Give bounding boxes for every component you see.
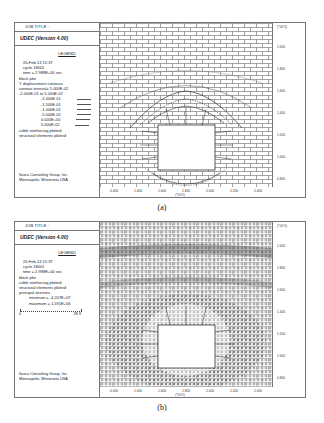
x-tick-label: 1.600 (158, 189, 166, 193)
contour-line-swatch (77, 99, 91, 100)
company-location: Minneapolis, Minnesota USA (19, 178, 68, 183)
app-title: UDEC (Version 4.00) (15, 32, 99, 46)
scale-max-label: 2E 8 (74, 312, 81, 316)
stress-scale-labels: 0 2E 8 (19, 312, 81, 316)
legend-stress-max: maximum = 1.591E+06 (15, 301, 99, 306)
contour-level-label: 5.000E-02 (41, 122, 59, 127)
x-tick-label: 2.000 (206, 189, 214, 193)
y-tick-label: 1.400 (277, 310, 285, 314)
legend-sidebar: JOB TITLE : UDEC (Version 4.00) LEGEND 2… (15, 23, 100, 197)
contour-line-swatch (77, 104, 91, 105)
block-displacement-plot (100, 23, 273, 187)
y-tick-label: 2.000 (277, 244, 285, 248)
y-axis-unit: (*10^1) (277, 224, 287, 228)
y-tick-label: 1.000 (277, 155, 285, 159)
y-tick-label: 0.800 (277, 177, 285, 181)
x-axis-unit: (*10^1) (175, 193, 185, 197)
x-tick-label: 1.400 (134, 189, 142, 193)
x-tick-label: 2.000 (206, 389, 214, 393)
y-tick-label: 1.800 (277, 67, 285, 71)
contour-line-swatch (76, 119, 90, 120)
y-tick-label: 1.200 (277, 133, 285, 137)
contour-line-swatch (75, 125, 89, 126)
y-axis: (*10^1) 2.000 1.800 1.600 1.400 1.200 1.… (273, 23, 303, 197)
x-tick-label: 2.200 (230, 389, 238, 393)
scale-min-label: 0 (19, 312, 21, 316)
y-tick-label: 2.000 (277, 45, 285, 49)
company-location: Minneapolis, Minnesota USA (19, 377, 68, 382)
x-tick-label: 2.400 (254, 389, 262, 393)
y-tick-label: 1.000 (277, 354, 285, 358)
y-axis: (*10^1) 2.000 1.800 1.600 1.400 1.200 1.… (273, 222, 303, 397)
udec-plot-panel-a: JOB TITLE : UDEC (Version 4.00) LEGEND 2… (14, 22, 306, 198)
job-title: JOB TITLE : (15, 222, 99, 231)
x-tick-label: 1.600 (158, 389, 166, 393)
x-tick-label: 1.400 (134, 389, 142, 393)
legend-structural-note: structural elements plotted (15, 133, 99, 138)
x-tick-label: 2.400 (254, 189, 262, 193)
x-tick-label: 0.400 (110, 189, 118, 193)
stress-tensor-graphic (100, 222, 272, 387)
x-axis: 0.400 1.400 1.600 1.800 2.000 2.200 2.40… (100, 387, 272, 397)
x-tick-label: 0.400 (110, 389, 118, 393)
y-tick-label: 1.800 (277, 266, 285, 270)
legend-heading: LEGEND (15, 250, 99, 255)
y-axis-unit: (*10^1) (277, 25, 287, 29)
udec-plot-panel-b: JOB TITLE : UDEC (Version 4.00) LEGEND 2… (14, 221, 306, 398)
legend-heading: LEGEND (15, 51, 99, 56)
y-tick-label: 1.400 (277, 111, 285, 115)
principal-stress-plot (100, 222, 273, 387)
contour-line-swatch (77, 109, 91, 110)
y-tick-label: 1.600 (277, 288, 285, 292)
x-axis: 0.400 1.400 1.600 1.800 2.000 2.200 2.40… (100, 187, 272, 197)
y-tick-label: 1.200 (277, 332, 285, 336)
y-tick-label: 1.600 (277, 89, 285, 93)
app-title: UDEC (Version 4.00) (15, 231, 99, 245)
block-grid-graphic (100, 23, 272, 187)
figure-caption-a: (a) (158, 203, 167, 212)
legend-sidebar: JOB TITLE : UDEC (Version 4.00) LEGEND 2… (15, 222, 100, 397)
x-tick-label: 2.200 (230, 189, 238, 193)
x-axis-unit: (*10^1) (175, 393, 185, 397)
y-tick-label: 0.800 (277, 376, 285, 380)
contour-line-swatch (77, 114, 91, 115)
figure-caption-b: (b) (157, 403, 166, 412)
job-title: JOB TITLE : (15, 23, 99, 32)
